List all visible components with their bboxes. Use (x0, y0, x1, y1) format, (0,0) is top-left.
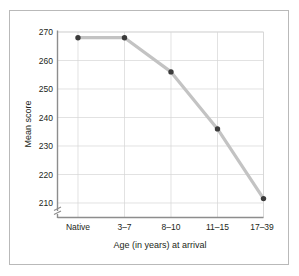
figure-frame: 270 260 250 240 230 220 210 Native 3–7 8… (9, 10, 289, 265)
x-tick-label-3-7: 3–7 (117, 222, 131, 232)
data-point-17-39 (261, 196, 266, 201)
plot-frame (58, 32, 264, 218)
data-point-3-7 (122, 35, 127, 40)
x-tick-label-11-15: 11–15 (206, 222, 229, 232)
x-tick-labels: Native 3–7 8–10 11–15 17–39 (66, 222, 274, 232)
x-axis-title: Age (in years) at arrival (113, 240, 206, 250)
y-axis-title: Mean score (23, 100, 33, 147)
y-tick-label-260: 260 (39, 56, 53, 66)
y-tick-label-270: 270 (39, 27, 53, 37)
x-tick-label-17-39: 17–39 (250, 222, 274, 232)
x-tick-label-8-10: 8–10 (162, 222, 181, 232)
data-point-8-10 (168, 69, 173, 74)
y-tick-label-250: 250 (39, 84, 53, 94)
y-tick-label-220: 220 (39, 170, 53, 180)
y-tick-label-240: 240 (39, 113, 53, 123)
data-point-native (75, 35, 80, 40)
vertical-gridlines (78, 32, 264, 218)
y-tick-labels: 270 260 250 240 230 220 210 (39, 27, 53, 208)
line-chart: 270 260 250 240 230 220 210 Native 3–7 8… (10, 11, 288, 264)
y-tick-label-210: 210 (39, 198, 53, 208)
horizontal-gridlines (58, 32, 264, 203)
x-tick-label-native: Native (66, 222, 90, 232)
data-point-11-15 (215, 126, 220, 131)
y-tick-label-230: 230 (39, 141, 53, 151)
